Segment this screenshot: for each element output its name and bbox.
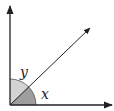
angle-diagram: y x [0, 0, 114, 111]
label-y: y [19, 64, 29, 80]
label-x: x [41, 86, 49, 102]
